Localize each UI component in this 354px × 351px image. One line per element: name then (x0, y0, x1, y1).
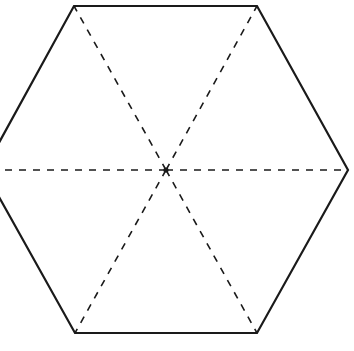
dashed-line-top-right (166, 6, 257, 170)
center-dot (163, 167, 168, 172)
dashed-line-top-left (74, 6, 166, 170)
dashed-line-bottom-left (75, 170, 166, 333)
hexagon-diagram (0, 0, 354, 351)
dashed-line-bottom-right (166, 170, 257, 333)
center-to-vertex-dashed-lines (0, 6, 348, 333)
